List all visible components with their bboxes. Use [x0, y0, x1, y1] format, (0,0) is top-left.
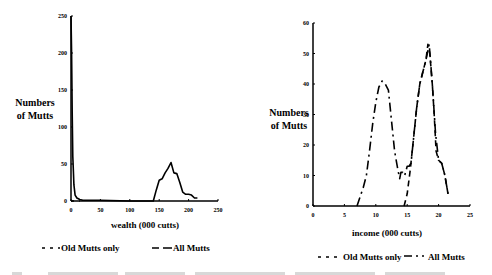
y-tick-label: 250: [58, 13, 67, 19]
series-line-all-mutts: [71, 16, 197, 201]
y-tick-label: 200: [58, 50, 67, 56]
x-tick-label: 0: [312, 212, 315, 218]
series-line-old-mutts-only: [404, 44, 448, 206]
y-axis-label-line-2: of Mutts: [271, 120, 307, 131]
income-chart: 0102030405060 0510152025 Numbers of Mutt…: [269, 20, 473, 262]
legend: Old Mutts only All Mutts: [318, 252, 465, 262]
y-tick-label: 150: [58, 87, 67, 93]
legend: Old Mutts only All Mutts: [42, 243, 210, 253]
y-tick-label: 20: [303, 142, 309, 148]
y-tick-label: 60: [303, 20, 309, 26]
x-tick-label: 200: [184, 207, 193, 213]
x-axis-label: income (000 cutts): [352, 228, 422, 238]
y-tick-label: 0: [64, 198, 67, 204]
legend-label-all-mutts: All Mutts: [173, 243, 210, 253]
x-tick-label: 250: [214, 207, 223, 213]
legend-label-old-mutts: Old Mutts only: [343, 252, 402, 262]
y-tick-label: 100: [58, 124, 67, 130]
x-tick-label: 15: [404, 212, 410, 218]
x-tick-label: 5: [343, 212, 346, 218]
x-tick-label: 0: [70, 207, 73, 213]
x-tick-label: 10: [373, 212, 379, 218]
y-tick-label: 50: [303, 51, 309, 57]
x-tick-label: 150: [155, 207, 164, 213]
y-tick-label: 50: [61, 161, 67, 167]
y-axis-label-line-1: Numbers: [15, 97, 55, 108]
x-tick-label: 20: [436, 212, 442, 218]
wealth-chart: 050100150200250 050100150200250 Numbers …: [15, 13, 222, 253]
series-line-all-mutts: [357, 44, 448, 206]
x-tick-label: 100: [125, 207, 134, 213]
y-tick-label: 0: [306, 203, 309, 209]
y-tick-label: 10: [303, 173, 309, 179]
x-axis-label: wealth (000 cutts): [111, 220, 179, 230]
x-tick-label: 50: [97, 207, 103, 213]
y-tick-label: 40: [303, 81, 309, 87]
y-axis-label-line-2: of Mutts: [17, 110, 53, 121]
legend-label-old-mutts: Old Mutts only: [61, 243, 120, 253]
x-tick-label: 25: [467, 212, 473, 218]
legend-label-all-mutts: All Mutts: [428, 252, 465, 262]
figure: 050100150200250 050100150200250 Numbers …: [0, 0, 492, 275]
y-axis-label-line-1: Numbers: [269, 107, 309, 118]
